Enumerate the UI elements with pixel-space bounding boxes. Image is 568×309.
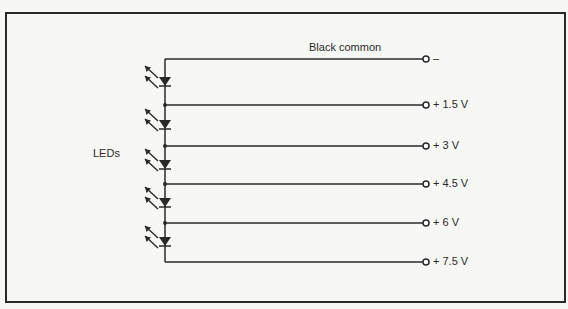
terminal-label: + 6 V <box>433 217 459 228</box>
terminal-circle-icon <box>423 102 429 108</box>
led-diode-icon <box>159 77 171 86</box>
figure-frame <box>6 13 565 302</box>
junction-dot-icon <box>163 182 167 186</box>
led-circuit-diagram <box>0 0 568 309</box>
terminal-circle-icon <box>423 259 429 265</box>
terminal-label: + 3 V <box>433 140 459 151</box>
terminal-label: + 1.5 V <box>433 99 468 110</box>
led-diode-icon <box>159 237 171 246</box>
terminal-circle-icon <box>423 143 429 149</box>
led-diode-icon <box>159 198 171 207</box>
terminal-label: + 4.5 V <box>433 178 468 189</box>
leds-label: LEDs <box>93 148 120 159</box>
junction-dot-icon <box>163 221 167 225</box>
terminal-label: – <box>433 53 439 64</box>
terminal-circle-icon <box>423 56 429 62</box>
terminal-label: + 7.5 V <box>433 256 468 267</box>
black-common-label: Black common <box>309 42 381 53</box>
led-diode-icon <box>159 160 171 169</box>
terminal-circle-icon <box>423 181 429 187</box>
led-diode-icon <box>159 120 171 129</box>
terminal-circle-icon <box>423 220 429 226</box>
junction-dot-icon <box>163 103 167 107</box>
junction-dot-icon <box>163 144 167 148</box>
